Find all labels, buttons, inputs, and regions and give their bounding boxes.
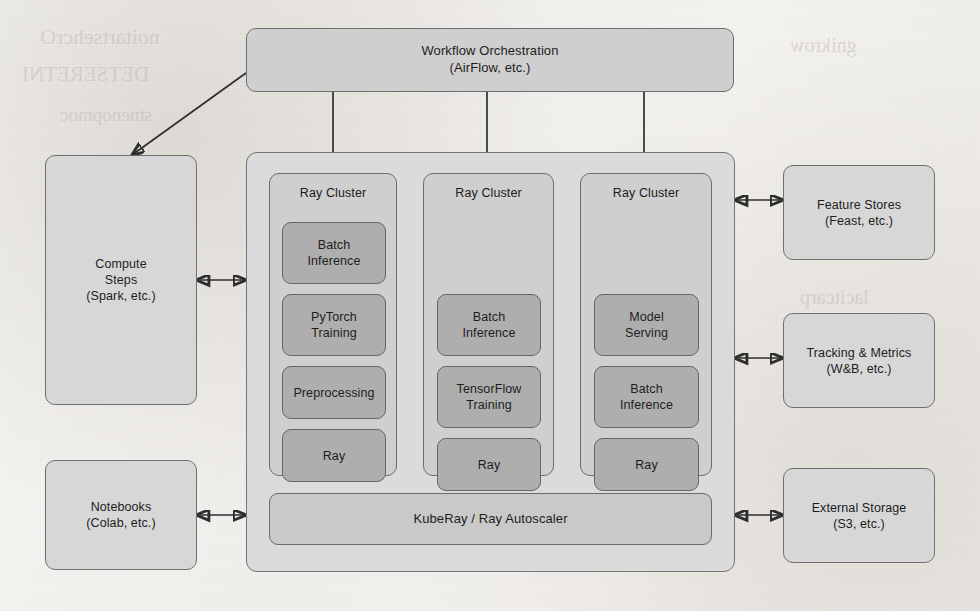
- chip-line-2: Inference: [462, 325, 515, 341]
- feature-stores-box[interactable]: Feature Stores (Feast, etc.): [783, 165, 935, 260]
- bleed-through-text: lacitcarp: [800, 286, 869, 309]
- chip-line-2: Inference: [620, 397, 673, 413]
- ray-cluster-3[interactable]: Ray Cluster Model Serving Batch Inferenc…: [580, 173, 712, 476]
- ray-cluster-1-chip-ray[interactable]: Ray: [282, 429, 386, 482]
- ray-cluster-3-chip-model-serving[interactable]: Model Serving: [594, 294, 699, 356]
- chip-line-1: Ray: [635, 457, 658, 473]
- chip-line-1: Batch: [307, 237, 360, 253]
- ray-cluster-3-title: Ray Cluster: [581, 174, 711, 201]
- ray-cluster-2[interactable]: Ray Cluster Batch Inference TensorFlow T…: [423, 173, 554, 476]
- compute-steps-box[interactable]: Compute Steps (Spark, etc.): [45, 155, 197, 405]
- chip-line-2: Serving: [625, 325, 668, 341]
- external-storage-box[interactable]: External Storage (S3, etc.): [783, 468, 935, 563]
- tracking-metrics-line-1: Tracking & Metrics: [807, 345, 912, 361]
- compute-steps-line-3: (Spark, etc.): [86, 288, 155, 304]
- chip-line-1: Preprocessing: [293, 385, 374, 401]
- ray-cluster-2-title: Ray Cluster: [424, 174, 553, 201]
- chip-line-1: Model: [625, 309, 668, 325]
- ray-cluster-3-chip-ray[interactable]: Ray: [594, 438, 699, 491]
- chip-line-2: Training: [457, 397, 522, 413]
- kuberay-autoscaler-bar[interactable]: KubeRay / Ray Autoscaler: [269, 493, 712, 545]
- external-storage-line-2: (S3, etc.): [812, 516, 907, 532]
- connector-orchestration-to-compute: [132, 73, 246, 155]
- chip-line-1: Ray: [323, 448, 346, 464]
- ray-cluster-1-chip-preprocessing[interactable]: Preprocessing: [282, 366, 386, 419]
- bleed-through-text: noitartsehcrO: [40, 24, 160, 50]
- ray-cluster-2-chip-ray[interactable]: Ray: [437, 438, 541, 491]
- tracking-metrics-box[interactable]: Tracking & Metrics (W&B, etc.): [783, 313, 935, 408]
- compute-steps-line-1: Compute: [86, 256, 155, 272]
- workflow-orchestration-subtitle: (AirFlow, etc.): [421, 60, 558, 77]
- notebooks-line-1: Notebooks: [86, 499, 155, 515]
- ray-cluster-2-chip-batch-inference[interactable]: Batch Inference: [437, 294, 541, 356]
- notebooks-box[interactable]: Notebooks (Colab, etc.): [45, 460, 197, 570]
- chip-line-2: Training: [311, 325, 357, 341]
- bleed-through-text: DETSERETNI: [22, 62, 149, 87]
- diagram-canvas: noitartsehcrO DETSERETNI stnenopmoc gnik…: [0, 0, 980, 611]
- kuberay-autoscaler-label: KubeRay / Ray Autoscaler: [413, 511, 567, 528]
- ray-cluster-1-title: Ray Cluster: [270, 174, 396, 201]
- chip-line-1: Batch: [620, 381, 673, 397]
- chip-line-1: Batch: [462, 309, 515, 325]
- ray-cluster-1-chip-batch-inference[interactable]: Batch Inference: [282, 222, 386, 284]
- chip-line-2: Inference: [307, 253, 360, 269]
- ray-cluster-2-chip-tensorflow-training[interactable]: TensorFlow Training: [437, 366, 541, 428]
- bleed-through-text: stnenopmoc: [60, 104, 152, 126]
- notebooks-line-2: (Colab, etc.): [86, 515, 155, 531]
- ray-cluster-1-chip-pytorch-training[interactable]: PyTorch Training: [282, 294, 386, 356]
- chip-line-1: PyTorch: [311, 309, 357, 325]
- ray-cluster-1[interactable]: Ray Cluster Batch Inference PyTorch Trai…: [269, 173, 397, 476]
- compute-steps-line-2: Steps: [86, 272, 155, 288]
- chip-line-1: TensorFlow: [457, 381, 522, 397]
- feature-stores-line-2: (Feast, etc.): [817, 213, 901, 229]
- feature-stores-line-1: Feature Stores: [817, 197, 901, 213]
- workflow-orchestration-title: Workflow Orchestration: [421, 43, 558, 60]
- ray-cluster-3-chip-batch-inference[interactable]: Batch Inference: [594, 366, 699, 428]
- workflow-orchestration-box[interactable]: Workflow Orchestration (AirFlow, etc.): [246, 28, 734, 92]
- chip-line-1: Ray: [478, 457, 501, 473]
- ray-platform-frame: Ray Cluster Batch Inference PyTorch Trai…: [246, 152, 735, 572]
- bleed-through-text: gnikrow: [790, 34, 857, 57]
- external-storage-line-1: External Storage: [812, 500, 907, 516]
- tracking-metrics-line-2: (W&B, etc.): [807, 361, 912, 377]
